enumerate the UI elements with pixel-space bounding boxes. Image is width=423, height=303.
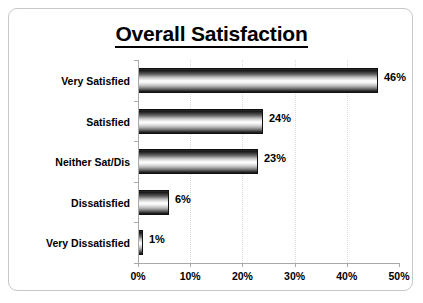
- x-tick: [138, 263, 139, 267]
- x-tick: [190, 263, 191, 267]
- y-tick: [134, 222, 138, 223]
- x-tick: [242, 263, 243, 267]
- x-tick-label-20: 20%: [222, 270, 262, 282]
- bar-value-very-satisfied: 46%: [384, 71, 406, 83]
- y-tick: [134, 101, 138, 102]
- bar-satisfied[interactable]: [138, 109, 263, 134]
- plot-area: 46% 24% 23% 6% 1%: [138, 60, 399, 263]
- x-tick-label-0: 0%: [118, 270, 158, 282]
- bar-value-satisfied: 24%: [269, 112, 291, 124]
- y-axis-line: [138, 60, 139, 264]
- y-tick: [134, 141, 138, 142]
- category-label-satisfied: Satisfied: [10, 116, 130, 128]
- bar-row: 6%: [138, 182, 399, 223]
- bar-row: 23%: [138, 141, 399, 182]
- bar-row: 1%: [138, 222, 399, 263]
- x-axis-line: [138, 263, 400, 264]
- x-tick: [347, 263, 348, 267]
- x-tick-label-50: 50%: [379, 270, 419, 282]
- bar-value-very-dissatisfied: 1%: [149, 233, 165, 245]
- x-tick: [295, 263, 296, 267]
- x-tick-label-10: 10%: [170, 270, 210, 282]
- category-label-dissatisfied: Dissatisfied: [10, 197, 130, 209]
- bar-value-dissatisfied: 6%: [175, 193, 191, 205]
- bar-dissatisfied[interactable]: [138, 190, 169, 215]
- bar-very-satisfied[interactable]: [138, 68, 378, 93]
- chart-title: Overall Satisfaction: [9, 22, 414, 46]
- category-label-neither-sat-dis: Neither Sat/Dis: [10, 156, 130, 168]
- x-tick-label-40: 40%: [327, 270, 367, 282]
- y-tick: [134, 60, 138, 61]
- category-label-very-dissatisfied: Very Dissatisfied: [10, 237, 130, 249]
- x-tick: [399, 263, 400, 267]
- bar-row: 24%: [138, 101, 399, 142]
- bar-neither-sat-dis[interactable]: [138, 149, 258, 174]
- x-tick-label-30: 30%: [275, 270, 315, 282]
- bar-value-neither-sat-dis: 23%: [264, 152, 286, 164]
- bar-row: 46%: [138, 60, 399, 101]
- category-label-very-satisfied: Very Satisfied: [10, 75, 130, 87]
- chart-title-text: Overall Satisfaction: [115, 22, 307, 48]
- y-tick: [134, 182, 138, 183]
- chart-container: Overall Satisfaction 46% 24% 23% 6% 1%: [8, 8, 413, 291]
